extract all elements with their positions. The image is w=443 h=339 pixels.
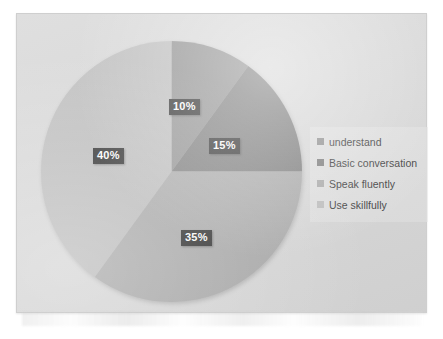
legend-swatch-icon [317, 201, 324, 208]
chart-plot-area: 10% 15% 35% 40% understand Basic convers… [16, 13, 427, 313]
legend-swatch-icon [317, 159, 324, 166]
legend-item-basic-conversation[interactable]: Basic conversation [313, 153, 425, 172]
pie-chart-svg[interactable] [41, 41, 302, 302]
pie-chart-screenshot: 10% 15% 35% 40% understand Basic convers… [0, 0, 443, 339]
legend-item-label: Basic conversation [329, 157, 417, 169]
legend-swatch-icon [317, 180, 324, 187]
data-label-understand: 10% [169, 99, 200, 115]
paper-scan-artifact [22, 312, 422, 326]
legend-item-use-skillfully[interactable]: Use skillfully [313, 195, 425, 214]
data-label-use-skillfully: 40% [93, 148, 124, 164]
legend-item-label: Speak fluently [329, 178, 395, 190]
legend-swatch-icon [317, 138, 324, 145]
legend-item-understand[interactable]: understand [313, 132, 425, 151]
data-label-speak-fluently: 35% [181, 230, 212, 246]
legend-item-label: understand [329, 136, 382, 148]
chart-legend: understand Basic conversation Speak flue… [310, 127, 428, 222]
data-label-basic-conversation: 15% [209, 138, 240, 154]
legend-item-label: Use skillfully [329, 199, 387, 211]
legend-item-speak-fluently[interactable]: Speak fluently [313, 174, 425, 193]
